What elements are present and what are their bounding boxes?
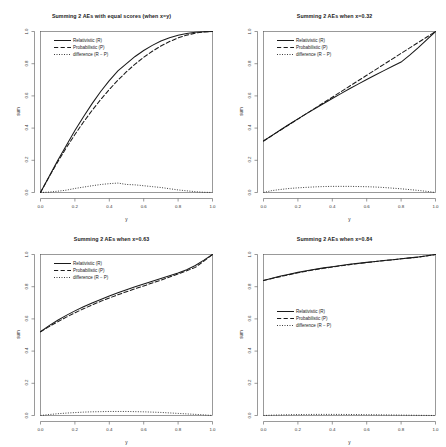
legend: Relativistic (R)Probabilistic (P)differe… [54, 260, 109, 282]
legend-label: difference (R − P) [73, 51, 108, 58]
y-tick-label: 0.8 [246, 279, 251, 293]
x-tick-label: 0.8 [393, 427, 409, 432]
x-tick-label: 0.2 [290, 204, 306, 209]
y-tick-label: 1.0 [23, 247, 28, 261]
legend-item: Probabilistic (P) [54, 267, 109, 274]
y-tick-label: 0.4 [246, 344, 251, 358]
legend-item: difference (R − P) [277, 51, 332, 58]
x-tick-label: 0.8 [170, 427, 186, 432]
x-tick-label: 0.6 [136, 204, 152, 209]
legend-key-dotted-icon [54, 274, 71, 281]
x-tick-label: 0.6 [359, 427, 375, 432]
legend-key-dashed-icon [277, 44, 294, 51]
legend-label: Relativistic (R) [296, 308, 325, 315]
y-tick-label: 0.2 [23, 153, 28, 167]
legend-key-dashed-icon [277, 315, 294, 322]
y-axis-title: sum [238, 325, 243, 345]
legend-key-dashed-icon [54, 44, 71, 51]
x-tick-label: 0.4 [324, 427, 340, 432]
y-tick-label: 0.0 [23, 185, 28, 199]
legend-item: Probabilistic (P) [277, 44, 332, 51]
x-axis-title: y [264, 217, 436, 222]
legend: Relativistic (R)Probabilistic (P)differe… [277, 308, 332, 330]
legend-label: Probabilistic (P) [73, 267, 105, 274]
legend-key-dotted-icon [277, 51, 294, 58]
chart-panel-1: Summing 2 AEs with equal scores (when x=… [0, 0, 223, 223]
legend-key-dashed-icon [54, 267, 71, 274]
plot-area [0, 223, 223, 446]
legend-label: difference (R − P) [296, 51, 331, 58]
y-tick-label: 0.2 [246, 376, 251, 390]
x-tick-label: 0.0 [256, 204, 272, 209]
legend-key-solid-icon [277, 308, 294, 315]
x-tick-label: 0.2 [67, 427, 83, 432]
x-tick-label: 0.4 [101, 427, 117, 432]
legend-item: Probabilistic (P) [277, 315, 332, 322]
y-tick-label: 0.4 [23, 344, 28, 358]
legend-item: difference (R − P) [54, 274, 109, 281]
x-axis-title: y [41, 217, 213, 222]
y-tick-label: 1.0 [23, 24, 28, 38]
legend: Relativistic (R)Probabilistic (P)differe… [277, 37, 332, 59]
plot-frame [264, 255, 436, 416]
legend-item: difference (R − P) [54, 51, 109, 58]
x-axis-title: y [264, 440, 436, 445]
y-axis-title: sum [15, 102, 20, 122]
x-tick-label: 1.0 [428, 427, 444, 432]
plot-area [0, 0, 223, 223]
y-tick-label: 0.2 [23, 376, 28, 390]
y-tick-label: 0.0 [246, 408, 251, 422]
legend-key-dotted-icon [277, 322, 294, 329]
legend-item: Probabilistic (P) [54, 44, 109, 51]
legend-label: Relativistic (R) [296, 37, 325, 44]
y-tick-label: 0.6 [23, 88, 28, 102]
legend-item: Relativistic (R) [277, 37, 332, 44]
x-tick-label: 0.8 [170, 204, 186, 209]
y-axis-title: sum [238, 102, 243, 122]
y-tick-label: 0.6 [23, 311, 28, 325]
legend-item: difference (R − P) [277, 322, 332, 329]
x-tick-label: 0.6 [359, 204, 375, 209]
legend-item: Relativistic (R) [54, 260, 109, 267]
figure-grid: Summing 2 AEs with equal scores (when x=… [0, 0, 446, 447]
x-tick-label: 0.0 [33, 427, 49, 432]
x-tick-label: 0.4 [324, 204, 340, 209]
legend-key-solid-icon [54, 260, 71, 267]
series-line-3 [41, 411, 213, 415]
y-tick-label: 0.8 [23, 56, 28, 70]
x-axis-title: y [41, 440, 213, 445]
y-tick-label: 0.6 [246, 88, 251, 102]
y-tick-label: 0.8 [246, 56, 251, 70]
x-tick-label: 0.2 [290, 427, 306, 432]
chart-panel-3: Summing 2 AEs when x=0.630.00.20.40.60.8… [0, 223, 223, 446]
legend-item: Relativistic (R) [54, 37, 109, 44]
legend-key-solid-icon [54, 37, 71, 44]
x-tick-label: 0.4 [101, 204, 117, 209]
y-tick-label: 0.2 [246, 153, 251, 167]
legend-label: Probabilistic (P) [296, 44, 328, 51]
legend-item: Relativistic (R) [277, 308, 332, 315]
x-tick-label: 1.0 [428, 204, 444, 209]
x-tick-label: 1.0 [205, 427, 221, 432]
series-line-3 [41, 183, 213, 192]
series-line-2 [264, 255, 436, 281]
x-tick-label: 0.8 [393, 204, 409, 209]
x-tick-label: 0.0 [256, 427, 272, 432]
series-line-3 [264, 186, 436, 192]
legend-label: difference (R − P) [73, 274, 108, 281]
legend-label: difference (R − P) [296, 322, 331, 329]
legend-label: Probabilistic (P) [296, 315, 328, 322]
y-tick-label: 1.0 [246, 247, 251, 261]
x-tick-label: 0.0 [33, 204, 49, 209]
y-tick-label: 0.8 [23, 279, 28, 293]
legend-key-solid-icon [277, 37, 294, 44]
chart-panel-2: Summing 2 AEs when x=0.320.00.20.40.60.8… [223, 0, 446, 223]
legend-label: Probabilistic (P) [73, 44, 105, 51]
y-tick-label: 0.4 [246, 121, 251, 135]
y-tick-label: 0.4 [23, 121, 28, 135]
x-tick-label: 0.2 [67, 204, 83, 209]
y-axis-title: sum [15, 325, 20, 345]
chart-panel-4: Summing 2 AEs when x=0.840.00.20.40.60.8… [223, 223, 446, 446]
legend: Relativistic (R)Probabilistic (P)differe… [54, 37, 109, 59]
plot-area [223, 223, 446, 446]
